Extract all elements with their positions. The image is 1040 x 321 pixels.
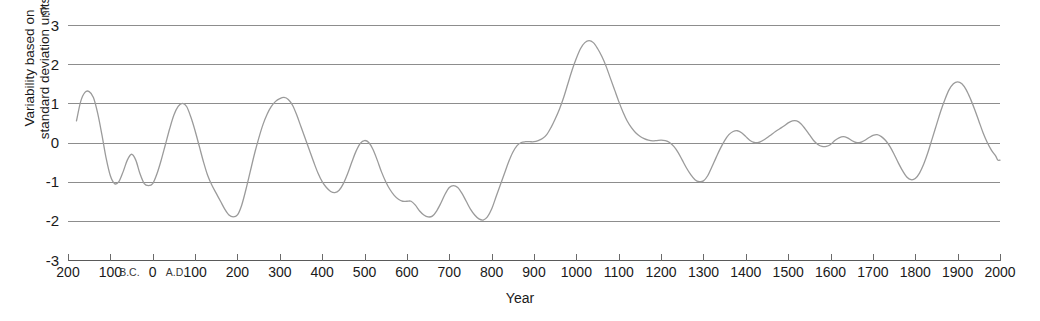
x-tick-label: 0 (149, 264, 157, 280)
gridlines-group (68, 26, 1000, 222)
y-tick-label: 3 (51, 17, 59, 34)
x-tick-marks-group (69, 254, 1001, 261)
x-tick-label: 200 (226, 264, 250, 280)
x-tick-label: 2000 (984, 264, 1015, 280)
x-tick-label: 300 (268, 264, 292, 280)
x-tick-label: 1800 (900, 264, 931, 280)
y-tick-labels-group: -3-2-10123 (46, 17, 59, 269)
series-line-variability (76, 41, 1000, 220)
x-tick-label: 500 (353, 264, 377, 280)
x-tick-label: 1100 (604, 264, 634, 280)
x-tick-label: 1600 (815, 264, 846, 280)
y-tick-label: -1 (46, 173, 59, 190)
y-tick-label: 2 (51, 56, 59, 73)
x-tick-label: 1300 (688, 264, 719, 280)
x-tick-label: 600 (395, 264, 419, 280)
x-tick-labels-group: 2001000100200300400500600700800900100011… (56, 264, 1015, 280)
x-tick-label: 1400 (730, 264, 761, 280)
x-axis-label: Year (0, 290, 1040, 306)
x-tick-label: 100 (183, 264, 207, 280)
y-tick-label: 0 (51, 134, 59, 151)
x-tick-label: 1000 (561, 264, 592, 280)
data-series-group (76, 41, 1000, 220)
figure-panel-c: c. Variability based on standard deviati… (0, 0, 1040, 321)
x-tick-label: 800 (480, 264, 504, 280)
y-tick-label: -2 (46, 212, 59, 229)
x-tick-label: 900 (522, 264, 546, 280)
x-tick-label: 1200 (646, 264, 677, 280)
x-tick-label: 700 (438, 264, 462, 280)
x-tick-label: 1900 (942, 264, 973, 280)
x-tick-label: 400 (311, 264, 335, 280)
y-tick-label: 1 (51, 95, 59, 112)
x-tick-label: 1700 (857, 264, 888, 280)
line-chart-plot: -3-2-10123 20010001002003004005006007008… (0, 0, 1040, 321)
x-tick-label: 1500 (773, 264, 804, 280)
era-label: A.D. (166, 266, 186, 278)
era-label: B.C. (119, 266, 139, 278)
x-tick-label: 200 (56, 264, 80, 280)
